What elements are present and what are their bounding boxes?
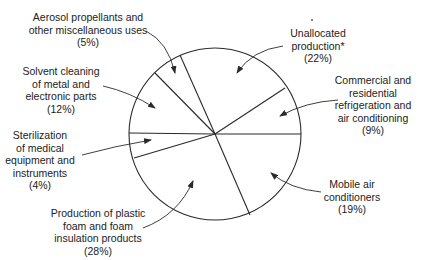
label-line: foam and foam: [51, 220, 146, 233]
arrow-solvent-icon: [103, 86, 155, 108]
label-line: Unallocated: [290, 27, 345, 40]
label-line: insulation products: [51, 232, 146, 245]
label-line: other miscellaneous uses: [29, 24, 147, 37]
slice-divider-left: [129, 133, 215, 134]
label-foam: Production of plastic foam and foam insu…: [51, 207, 146, 257]
label-line: of medical: [5, 142, 74, 155]
label-solvent: Solvent cleaning of metal and electronic…: [22, 65, 99, 115]
label-mobile: Mobile air conditioners (19%): [324, 178, 381, 216]
label-percent: (22%): [290, 52, 345, 65]
label-aerosol: Aerosol propellants and other miscellane…: [29, 11, 147, 49]
arrow-sterilization-icon: [82, 140, 151, 155]
label-line: equipment and: [5, 154, 74, 167]
arrow-mobile-icon: [271, 173, 321, 192]
label-line: instruments: [5, 167, 74, 180]
arrow-foam-icon: [143, 181, 193, 228]
label-line: Mobile air: [324, 178, 381, 191]
arrow-aerosol-icon: [146, 31, 175, 73]
label-line: Production of plastic: [51, 207, 146, 220]
slice-divider-upper-right: [215, 88, 285, 134]
label-percent: (9%): [335, 124, 411, 137]
label-percent: (12%): [22, 103, 99, 116]
label-line: of metal and: [22, 78, 99, 91]
arrow-unallocated-icon: [237, 46, 283, 73]
label-commercial: Commercial and residential refrigeration…: [335, 74, 411, 137]
label-line: residential: [335, 87, 411, 100]
slice-divider-upper-left-1: [155, 73, 215, 134]
label-line: Solvent cleaning: [22, 65, 99, 78]
slice-divider-lower-left: [134, 134, 215, 158]
label-line: conditioners: [324, 191, 381, 204]
slice-divider-upper-left-2: [180, 55, 215, 134]
label-percent: (19%): [324, 203, 381, 216]
label-line: air conditioning: [335, 112, 411, 125]
label-line: electronic parts: [22, 90, 99, 103]
label-unallocated: Unallocated production* (22%): [290, 27, 345, 65]
arrow-commercial-icon: [280, 100, 338, 116]
label-line: Commercial and: [335, 74, 411, 87]
slice-divider-lower-right: [215, 134, 250, 215]
pie: [129, 48, 301, 220]
label-sterilization: Sterilization of medical equipment and i…: [5, 129, 74, 192]
label-percent: (4%): [5, 179, 74, 192]
label-percent: (28%): [51, 245, 146, 258]
label-percent: (5%): [29, 36, 147, 49]
stray-dot: [311, 19, 313, 21]
label-line: Sterilization: [5, 129, 74, 142]
label-line: production*: [290, 40, 345, 53]
label-line: Aerosol propellants and: [29, 11, 147, 24]
label-line: refrigeration and: [335, 99, 411, 112]
